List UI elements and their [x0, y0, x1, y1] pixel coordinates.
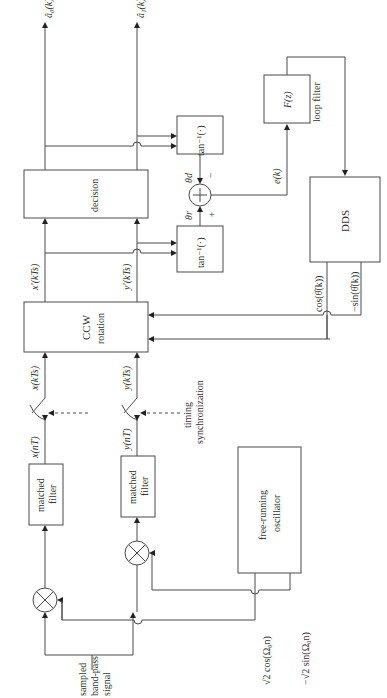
theta-r-label: θr	[183, 211, 194, 220]
decision-block: decision	[24, 170, 148, 218]
svg-text:CCW: CCW	[80, 314, 92, 340]
x-nT-label: x(nT)	[29, 436, 41, 459]
svg-text:decision: decision	[89, 179, 100, 212]
y-prime-label: y′(kTs)	[121, 263, 133, 291]
matched-filter-bottom: matched filter	[121, 456, 155, 517]
loop-filter-label: loop filter	[311, 82, 322, 122]
input-signal-label-3: signal	[101, 672, 112, 696]
svg-text:rotation: rotation	[95, 313, 106, 344]
svg-text:filter: filter	[139, 476, 150, 496]
svg-text:DDS: DDS	[339, 210, 351, 232]
free-running-oscillator: free-running oscillator	[238, 447, 301, 573]
input-signal-label: sampled	[77, 663, 88, 696]
cos-theta-label: cos(θ̂(k))	[313, 276, 325, 312]
svg-text:matched: matched	[35, 478, 46, 512]
sin-theta-label: −sin(θ̂(k))	[349, 272, 361, 312]
x-prime-label: x′(kTs)	[29, 263, 41, 291]
carrier-recovery-block-diagram: sampled band-pass signal	[0, 0, 387, 698]
input-signal-label-2: band-pass	[89, 656, 100, 696]
atan-top-block: tan⁻¹(·)	[177, 116, 223, 156]
sin-reference-label: −√2 sin(Ω₀n)	[300, 632, 312, 685]
svg-text:matched: matched	[127, 470, 138, 504]
mixer-bottom	[125, 541, 149, 565]
plus-sign: +	[209, 209, 215, 220]
svg-text:free-running: free-running	[257, 490, 268, 540]
svg-text:filter: filter	[47, 484, 58, 504]
ccw-rotation-block: CCW rotation	[24, 302, 148, 352]
error-label: e(k)	[271, 168, 283, 184]
matched-filter-top: matched filter	[29, 464, 63, 525]
cos-reference-label: √2 cos(Ω₀n)	[261, 636, 273, 685]
a0-hat-output: â₀(k)	[43, 0, 55, 18]
a1-hat-output: â₁(k)	[135, 0, 147, 18]
svg-text:tan⁻¹(·): tan⁻¹(·)	[195, 126, 207, 156]
y-nT-label: y(nT)	[121, 428, 133, 451]
dds-block: DDS	[310, 177, 380, 262]
atan-bottom-block: tan⁻¹(·)	[177, 226, 223, 272]
minus-sign: −	[205, 172, 216, 178]
loop-filter-block: F(z)	[264, 75, 310, 123]
x-kTs-label: x(kTs)	[29, 365, 41, 391]
mixer-top	[33, 588, 57, 612]
timing-sync-label: timing	[182, 402, 193, 428]
timing-sync-label-2: synchronization	[194, 380, 205, 444]
summing-junction	[189, 184, 211, 206]
svg-text:oscillator: oscillator	[271, 494, 282, 532]
y-kTs-label: y(kTs)	[121, 365, 133, 391]
svg-text:F(z): F(z)	[282, 91, 294, 109]
theta-d-label: θd	[183, 172, 194, 183]
svg-text:tan⁻¹(·): tan⁻¹(·)	[195, 238, 207, 268]
